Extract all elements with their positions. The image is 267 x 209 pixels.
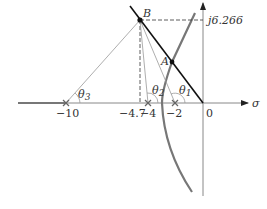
line-pole-4-to-b xyxy=(140,20,148,103)
label-theta2: θ2 xyxy=(152,84,165,98)
root-locus-diagram: B A j6.266 σ −10 −4.7 −4 −2 0 θ3 θ2 θ1 xyxy=(0,0,267,209)
label-b: B xyxy=(142,7,151,20)
point-b xyxy=(137,17,142,22)
tick-label-origin: 0 xyxy=(206,107,213,120)
label-a: A xyxy=(160,55,169,68)
tick-label-minus-2: −2 xyxy=(166,107,182,120)
label-sigma: σ xyxy=(252,97,260,110)
point-a xyxy=(170,60,175,65)
label-j6266: j6.266 xyxy=(205,14,243,27)
label-theta3: θ3 xyxy=(78,88,91,102)
tick-label-minus-10: −10 xyxy=(56,107,79,120)
tick-label-minus-4: −4 xyxy=(140,107,156,120)
